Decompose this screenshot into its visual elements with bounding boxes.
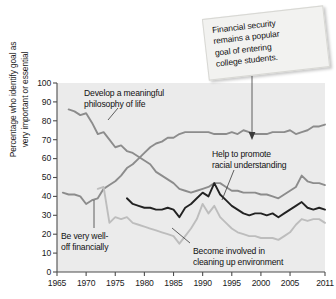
x-tick-label: 1965 (41, 278, 73, 288)
x-tick-label: 1970 (70, 278, 102, 288)
x-tick-label: 1990 (187, 278, 219, 288)
annotation-environment-line2: cleaning up environment (193, 257, 283, 268)
x-tick-label: 2000 (245, 278, 277, 288)
y-tick-label: 30 (20, 210, 51, 220)
x-tick-label: 2005 (274, 278, 306, 288)
annotation-racial-line2: racial understanding (212, 160, 286, 171)
y-axis-ticks (53, 83, 57, 272)
chart-figure: Percentage who identify goal as very imp… (0, 0, 336, 299)
y-tick-label: 80 (20, 116, 51, 126)
y-tick-label: 10 (20, 248, 51, 258)
annotation-philosophy: Develop a meaningful philosophy of life (84, 88, 164, 110)
y-tick-label: 90 (20, 97, 51, 107)
annotation-financial: Be very well- off financially (61, 231, 108, 253)
y-tick-label: 20 (20, 229, 51, 239)
annotation-racial-line1: Help to promote (212, 149, 286, 160)
y-tick-label: 50 (20, 172, 51, 182)
annotation-environment-line1: Become involved in (193, 246, 283, 257)
annotation-financial-line2: off financially (61, 242, 108, 253)
y-tick-label: 60 (20, 153, 51, 163)
x-tick-label: 1995 (216, 278, 248, 288)
annotation-environment: Become involved in cleaning up environme… (193, 246, 283, 268)
x-tick-label: 1985 (158, 278, 190, 288)
y-tick-label: 100 (20, 78, 51, 88)
x-axis-ticks (57, 272, 325, 276)
y-tick-label: 70 (20, 135, 51, 145)
y-tick-label: 0 (20, 267, 51, 277)
x-tick-label: 1980 (128, 278, 160, 288)
annotation-philosophy-line1: Develop a meaningful (84, 88, 164, 99)
x-tick-label: 1975 (99, 278, 131, 288)
annotation-philosophy-line2: philosophy of life (84, 99, 164, 110)
annotation-racial: Help to promote racial understanding (212, 149, 286, 171)
y-tick-label: 40 (20, 191, 51, 201)
annotation-financial-line1: Be very well- (61, 231, 108, 242)
x-tick-label: 2011 (309, 278, 336, 288)
